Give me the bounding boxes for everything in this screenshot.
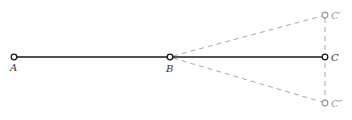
label-c-double-prime: C″ xyxy=(331,98,343,109)
point-c-prime xyxy=(322,12,328,18)
dashed-segment-b-cdoubleprime xyxy=(173,58,322,102)
dashed-segment-b-cprime xyxy=(173,16,322,56)
point-c xyxy=(322,54,328,60)
label-b: B xyxy=(165,63,173,74)
label-a: A xyxy=(9,62,17,73)
point-a xyxy=(11,54,17,60)
label-c: C xyxy=(331,52,339,63)
point-b xyxy=(167,54,173,60)
point-c-double-prime xyxy=(322,100,328,106)
label-c-prime: C′ xyxy=(331,10,342,21)
diagram-canvas: A B C C′ C″ xyxy=(0,0,352,120)
